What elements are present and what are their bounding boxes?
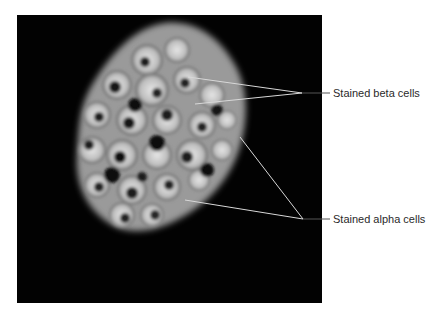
islet-cell-cluster bbox=[17, 15, 322, 303]
label-stained-alpha-cells: Stained alpha cells bbox=[333, 213, 425, 225]
islet-micrograph bbox=[17, 15, 322, 303]
label-stained-beta-cells: Stained beta cells bbox=[333, 87, 420, 99]
